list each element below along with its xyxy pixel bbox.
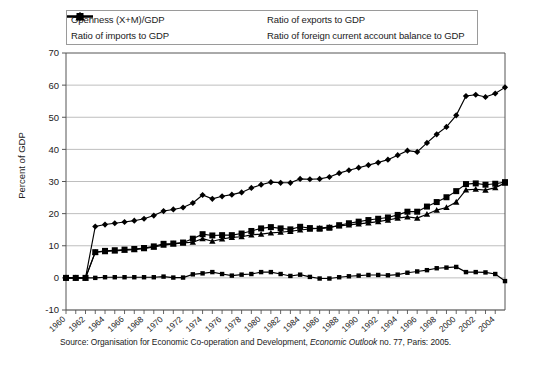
x-tick-label: 1994 — [378, 314, 399, 334]
x-tick-label: 1988 — [320, 314, 341, 334]
x-tick-label: 2004 — [476, 314, 497, 334]
x-tick-label: 1984 — [281, 314, 302, 334]
data-point — [395, 152, 401, 158]
data-point — [93, 276, 97, 280]
source-note: Source: Organisation for Economic Co-ope… — [60, 337, 530, 347]
x-tick-label: 1986 — [300, 314, 321, 334]
data-point — [376, 273, 380, 277]
data-point — [288, 274, 292, 278]
y-tick-label: 60 — [48, 80, 59, 91]
series-line — [66, 183, 505, 278]
data-point — [258, 182, 264, 188]
data-point — [395, 272, 399, 276]
source-title: Economic Outlook — [310, 337, 377, 347]
data-point — [121, 219, 127, 225]
data-point — [113, 275, 117, 279]
series-2 — [63, 180, 508, 281]
data-point — [346, 167, 352, 173]
source-suffix: no. 77, Paris: 2005. — [377, 337, 451, 347]
data-point — [210, 270, 214, 274]
data-point — [220, 272, 224, 276]
data-point — [268, 224, 274, 230]
data-point — [435, 266, 439, 270]
data-point — [347, 274, 351, 278]
data-point — [366, 273, 370, 277]
data-point — [463, 181, 469, 187]
x-tick-label: 1970 — [144, 314, 165, 334]
data-point — [443, 204, 449, 210]
data-point — [444, 265, 448, 269]
x-tick-label: 1974 — [183, 314, 204, 334]
data-point — [298, 272, 302, 276]
data-point — [287, 180, 293, 186]
series-line — [66, 267, 505, 281]
data-point — [259, 270, 263, 274]
data-point — [385, 157, 391, 163]
data-point — [356, 273, 360, 277]
data-point — [142, 275, 146, 279]
data-point — [405, 271, 409, 275]
data-point — [230, 273, 234, 277]
data-point — [493, 272, 497, 276]
data-point — [365, 162, 371, 168]
data-point — [181, 275, 185, 279]
x-tick-label: 1990 — [339, 314, 360, 334]
data-point — [473, 180, 479, 186]
chart-plot: -100102030405060701960196219641966196819… — [0, 0, 537, 365]
data-point — [454, 265, 458, 269]
data-point — [161, 274, 165, 278]
x-tick-label: 2002 — [457, 314, 478, 334]
data-point — [443, 194, 449, 200]
data-point — [249, 272, 253, 276]
chart-figure: Openness (X+M)/GDP Ratio of exports to G… — [0, 0, 537, 365]
data-point — [209, 232, 215, 238]
data-point — [482, 94, 488, 100]
data-point — [122, 275, 126, 279]
data-point — [482, 182, 488, 188]
data-point — [336, 170, 342, 176]
data-point — [453, 188, 459, 194]
x-tick-label: 1962 — [66, 314, 87, 334]
series-0 — [63, 84, 508, 281]
data-point — [103, 275, 107, 279]
data-point — [74, 276, 78, 280]
data-point — [152, 275, 156, 279]
y-tick-label: -10 — [45, 304, 59, 315]
data-point — [337, 275, 341, 279]
x-tick-label: 1966 — [105, 314, 126, 334]
data-point — [248, 185, 254, 191]
data-point — [209, 196, 215, 202]
y-tick-label: 0 — [54, 272, 59, 283]
x-tick-label: 1996 — [398, 314, 419, 334]
data-point — [102, 221, 108, 227]
x-tick-label: 1982 — [261, 314, 282, 334]
y-tick-label: 20 — [48, 208, 59, 219]
series-1 — [63, 179, 508, 281]
x-tick-label: 1972 — [164, 314, 185, 334]
data-point — [308, 275, 312, 279]
data-point — [327, 276, 331, 280]
data-point — [474, 270, 478, 274]
data-point — [317, 276, 321, 280]
data-point — [415, 269, 419, 273]
x-tick-label: 1992 — [359, 314, 380, 334]
data-point — [268, 179, 274, 185]
x-tick-label: 1998 — [418, 314, 439, 334]
data-point — [239, 189, 245, 195]
data-point — [131, 218, 137, 224]
data-point — [92, 223, 98, 229]
data-point — [375, 159, 381, 165]
data-point — [386, 273, 390, 277]
data-point — [191, 272, 195, 276]
data-point — [424, 204, 430, 210]
x-tick-label: 1968 — [125, 314, 146, 334]
data-point — [141, 216, 147, 222]
x-tick-label: 1980 — [242, 314, 263, 334]
data-point — [326, 174, 332, 180]
data-point — [170, 206, 176, 212]
y-tick-label: 70 — [48, 47, 59, 58]
data-point — [269, 270, 273, 274]
data-point — [200, 271, 204, 275]
data-point — [219, 193, 225, 199]
data-point — [463, 93, 469, 99]
